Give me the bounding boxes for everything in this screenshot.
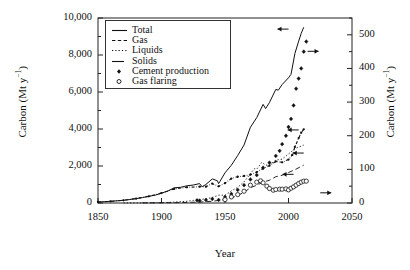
y-tick-label-left-5: 10,000 [42, 11, 92, 22]
y-tick-label-left-4: 8,000 [42, 48, 92, 59]
x-tick-label-0: 1850 [68, 211, 128, 222]
axis-pointer-arrow-3 [293, 151, 304, 156]
y-tick-label-right-4: 400 [359, 61, 399, 72]
y-tick-label-right-0: 0 [359, 196, 399, 207]
y-tick-label-right-3: 300 [359, 95, 399, 106]
axis-pointer-arrow-4 [283, 172, 294, 177]
y-tick-label-right-5: 500 [359, 28, 399, 39]
x-tick-label-3: 2000 [259, 211, 319, 222]
y-tick-label-left-2: 4,000 [42, 122, 92, 133]
series-gas-flaring [223, 179, 308, 202]
axis-pointer-arrow-1 [308, 49, 319, 54]
y-tick-label-right-1: 100 [359, 162, 399, 173]
x-tick-label-2: 1950 [195, 211, 255, 222]
x-axis-label: Year [98, 247, 352, 259]
y-tick-label-left-3: 6,000 [42, 85, 92, 96]
y-tick-label-right-2: 200 [359, 129, 399, 140]
chart-legend: TotalGasLiquidsSolidsCement productionGa… [105, 20, 231, 89]
legend-label: Gas flaring [132, 75, 177, 86]
y-axis-label-left: Carbon (Mt y−1) [14, 42, 28, 162]
y-tick-label-left-1: 2,000 [42, 159, 92, 170]
axis-pointer-arrow-5 [320, 190, 331, 195]
y-tick-label-left-0: 0 [42, 196, 92, 207]
x-tick-label-1: 1900 [132, 211, 192, 222]
axis-pointer-arrow-0 [278, 27, 289, 32]
legend-symbol-icon [110, 76, 130, 87]
chart-figure: Carbon (Mt y−1) Carbon (Mt y−1) Year 02,… [0, 0, 410, 270]
x-tick-label-4: 2050 [322, 211, 382, 222]
